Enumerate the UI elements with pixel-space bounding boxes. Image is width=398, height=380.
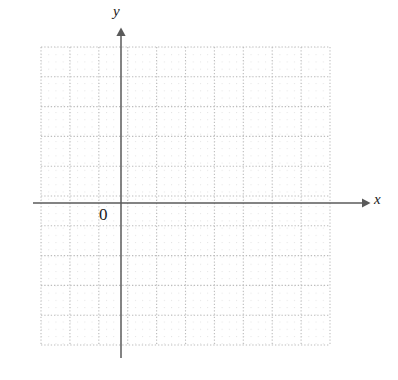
y-axis-arrowhead: [116, 28, 125, 37]
x-axis-label: x: [374, 192, 381, 207]
y-axis-label: y: [113, 4, 120, 19]
coordinate-grid-figure: y x 0: [0, 0, 398, 380]
origin-label: 0: [99, 206, 108, 223]
x-axis-arrowhead: [362, 198, 371, 207]
grid-and-axes-canvas: [0, 0, 398, 380]
